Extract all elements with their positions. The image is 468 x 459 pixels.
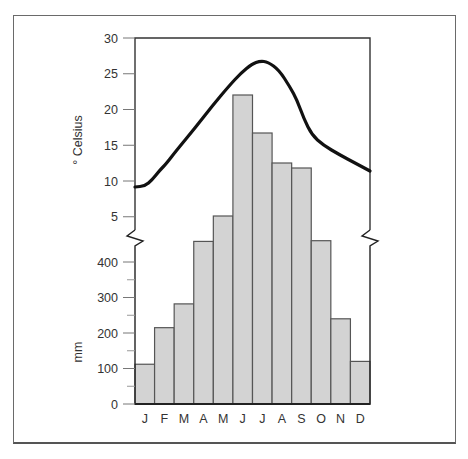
- temperature-tick-label: 25: [104, 67, 118, 81]
- month-label: O: [316, 412, 326, 426]
- precipitation-bar-M: [174, 304, 194, 404]
- month-label: A: [199, 412, 208, 426]
- month-label: J: [142, 412, 148, 426]
- month-label: D: [356, 412, 365, 426]
- month-label: N: [336, 412, 345, 426]
- precipitation-bar-A: [194, 241, 214, 404]
- month-label: M: [179, 412, 189, 426]
- precipitation-bar-J: [233, 95, 253, 404]
- month-label: A: [278, 412, 287, 426]
- temperature-tick-label: 20: [104, 103, 118, 117]
- month-label: M: [218, 412, 228, 426]
- precipitation-tick-label: 100: [97, 362, 118, 376]
- temperature-tick-label: 10: [104, 175, 118, 189]
- month-label: F: [161, 412, 169, 426]
- precipitation-tick-label: 300: [97, 291, 118, 305]
- precipitation-bars: [135, 95, 370, 404]
- month-label: J: [240, 412, 246, 426]
- temperature-tick-label: 30: [104, 32, 118, 46]
- precipitation-axis-title: mm: [71, 342, 85, 363]
- temperature-axis-title: ° Celsius: [71, 115, 85, 164]
- precipitation-bar-M: [213, 216, 233, 404]
- temperature-tick-label: 5: [111, 210, 118, 224]
- month-label: J: [259, 412, 265, 426]
- precipitation-bar-D: [350, 361, 370, 404]
- precipitation-tick-label: 0: [111, 398, 118, 412]
- precipitation-bar-A: [272, 163, 292, 404]
- precipitation-bar-S: [292, 168, 312, 404]
- month-label: S: [297, 412, 305, 426]
- precipitation-bar-O: [311, 241, 331, 404]
- precipitation-tick-label: 200: [97, 327, 118, 341]
- precipitation-tick-label: 400: [97, 256, 118, 270]
- precipitation-bar-F: [155, 328, 175, 404]
- temperature-tick-label: 15: [104, 139, 118, 153]
- precipitation-bar-J: [135, 364, 155, 404]
- precipitation-bar-J: [253, 133, 273, 404]
- climate-chart: 302520151054003002001000JFMAMJJASOND ° C…: [0, 0, 468, 459]
- precipitation-bar-N: [331, 319, 351, 404]
